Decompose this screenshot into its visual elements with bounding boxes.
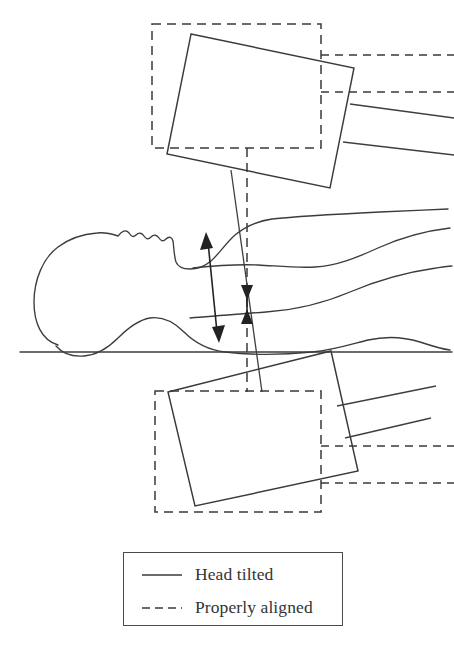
bottom-tilted-frame-solid (168, 351, 358, 506)
head-and-upper-contour (34, 209, 448, 345)
arm-lower-contour (190, 266, 452, 318)
bottom-tilted-arm-upper-solid (337, 386, 436, 406)
legend-label-head-tilted: Head tilted (195, 566, 273, 584)
top-tilted-frame-solid (167, 34, 354, 188)
top-aligned-frame-dashed (152, 24, 321, 148)
tilted-offset-arrowhead-top (200, 232, 213, 250)
page-bottom-artifact (0, 633, 454, 645)
legend-item-properly-aligned: Properly aligned (124, 591, 342, 624)
alignment-diagram (0, 0, 454, 645)
legend-swatch-dashed-icon (141, 602, 183, 614)
tilted-offset-arrowhead-bottom (212, 325, 225, 343)
top-device-group (152, 24, 454, 188)
legend-item-head-tilted: Head tilted (124, 558, 342, 591)
aligned-offset-arrowhead-top (241, 285, 253, 300)
connector-group (231, 148, 262, 392)
legend-label-properly-aligned: Properly aligned (195, 599, 313, 617)
patient-figure (20, 209, 452, 356)
bottom-aligned-frame-dashed (155, 391, 321, 512)
top-tilted-arm-lower-solid (343, 142, 454, 155)
top-tilted-arm-upper-solid (350, 104, 454, 118)
bottom-tilted-arm-lower-solid (345, 418, 431, 438)
arm-upper-contour (193, 228, 450, 268)
figure-root: Head tilted Properly aligned (0, 0, 454, 645)
legend: Head tilted Properly aligned (123, 552, 343, 626)
bottom-device-group (155, 351, 454, 512)
measurement-arrows (200, 232, 253, 343)
legend-swatch-solid-icon (141, 569, 183, 581)
